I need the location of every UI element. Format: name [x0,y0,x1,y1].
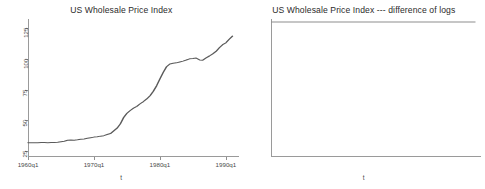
panel-right-title: US Wholesale Price Index --- difference … [243,5,485,15]
y-tick-label: 100 [22,58,29,68]
y-tick-label: 75 [22,89,29,96]
y-tick-label: 50 [22,120,29,127]
x-tick-mark [28,157,29,160]
x-tick-label: 1990q1 [216,161,237,168]
y-tick-label: 125 [22,28,29,38]
panel-difference-of-logs: US Wholesale Price Index --- difference … [243,0,485,189]
series-difference-of-logs [271,22,476,157]
x-tick-label: 1960q1 [18,161,39,168]
x-tick-label: 1970q1 [84,161,105,168]
series-wholesale-price-index [28,22,233,157]
panel-wholesale-price-index: US Wholesale Price Index 255075100125196… [0,0,243,189]
x-axis-title-left: t [0,174,243,181]
x-tick-mark [160,157,161,160]
x-tick-mark [226,157,227,160]
x-axis-title-right: t [243,174,485,181]
figure-container: US Wholesale Price Index 255075100125196… [0,0,485,189]
plot-area-left: 2550751001251960q11970q11980q11990q1 [28,22,233,157]
x-tick-label: 1980q1 [150,161,171,168]
panel-left-title: US Wholesale Price Index [0,5,243,15]
plot-area-right [271,22,476,157]
x-tick-mark [94,157,95,160]
